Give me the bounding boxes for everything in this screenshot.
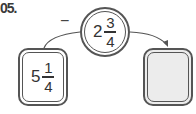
fraction-bar <box>42 76 54 78</box>
connector-arrow-right <box>130 32 166 44</box>
start-denominator: 4 <box>44 79 52 94</box>
start-numerator: 1 <box>44 60 52 75</box>
start-value-box: 5 1 4 <box>18 48 68 106</box>
start-whole: 5 <box>31 67 40 87</box>
operand-fraction: 3 4 <box>104 15 116 49</box>
operand-circle: 2 3 4 <box>80 7 130 57</box>
connector-line-left <box>44 32 80 48</box>
fraction-bar <box>104 31 116 33</box>
operand-whole: 2 <box>93 22 102 42</box>
operand-mixed-number: 2 3 4 <box>93 15 116 49</box>
operator-symbol: − <box>60 12 69 30</box>
answer-box[interactable] <box>143 48 193 106</box>
start-mixed-number: 5 1 4 <box>31 60 54 94</box>
start-fraction: 1 4 <box>42 60 54 94</box>
operand-denominator: 4 <box>106 34 114 49</box>
operand-numerator: 3 <box>106 15 114 30</box>
